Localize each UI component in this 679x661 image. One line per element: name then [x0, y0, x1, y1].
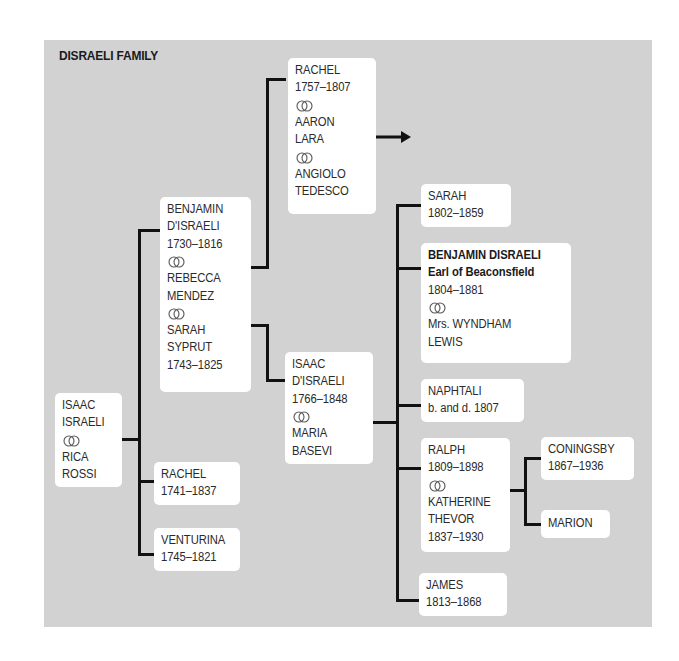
marriage-rings-icon — [62, 432, 116, 449]
name-line: D'ISRAELI — [292, 373, 360, 390]
connector-line — [524, 457, 542, 460]
connector-line — [266, 78, 286, 81]
person-rachel-1741: RACHEL 1741–1837 — [154, 462, 240, 505]
connector-line — [266, 78, 269, 269]
marriage-rings-icon — [295, 97, 370, 114]
connector-line — [396, 204, 421, 207]
dates-line: 1804–1881 — [428, 282, 551, 299]
connector-line — [524, 523, 542, 526]
dates-line: 1730–1816 — [167, 236, 237, 253]
spouse-line: REBECCA — [167, 270, 237, 287]
person-marion: MARION — [541, 510, 610, 538]
spouse-line: LARA — [295, 131, 363, 148]
name-line: ISAAC — [292, 356, 360, 373]
dates-line: 1741–1837 — [161, 483, 227, 500]
marriage-rings-icon — [428, 299, 565, 316]
name-line: MARION — [548, 515, 598, 532]
diagram-title: DISRAELI FAMILY — [59, 48, 158, 63]
name-line: BENJAMIN DISRAELI — [428, 247, 551, 264]
spouse-line: ROSSI — [62, 466, 111, 483]
marriage-rings-icon — [292, 408, 367, 425]
person-ralph: RALPH 1809–1898 KATHERINE THEVOR 1837–19… — [421, 438, 510, 552]
person-venturina: VENTURINA 1745–1821 — [154, 528, 240, 571]
name-line: NAPHTALI — [428, 383, 509, 400]
person-rachel-1757: RACHEL 1757–1807 AARON LARA ANGIOLO TEDE… — [288, 58, 376, 214]
connector-line — [138, 553, 154, 556]
connector-line — [396, 599, 421, 602]
dates-line: 1813–1868 — [426, 594, 494, 611]
person-benjamin-disraeli-1730: BENJAMIN D'ISRAELI 1730–1816 REBECCA MEN… — [160, 197, 251, 392]
spouse-line: MENDEZ — [167, 288, 237, 305]
marriage-rings-icon — [167, 305, 245, 322]
connector-line — [396, 404, 421, 407]
name-line: SARAH — [428, 188, 497, 205]
dates-line: 1867–1936 — [548, 458, 620, 475]
person-isaac-disraeli: ISAAC D'ISRAELI 1766–1848 MARIA BASEVI — [285, 352, 373, 464]
spouse-line: ANGIOLO — [295, 166, 363, 183]
spouse-line: LEWIS — [428, 334, 551, 351]
name-line: CONINGSBY — [548, 441, 620, 458]
name-line: VENTURINA — [161, 532, 227, 549]
name-line: RALPH — [428, 442, 496, 459]
connector-line — [138, 480, 154, 483]
connector-line — [138, 229, 160, 232]
name-line: RACHEL — [295, 62, 363, 79]
connector-line — [396, 267, 421, 270]
spouse-line: SARAH — [167, 322, 237, 339]
dates-line: 1809–1898 — [428, 459, 496, 476]
name-line: JAMES — [426, 577, 494, 594]
person-coningsby: CONINGSBY 1867–1936 — [541, 437, 634, 480]
spouse-line: SYPRUT — [167, 339, 237, 356]
connector-line — [266, 324, 269, 382]
marriage-rings-icon — [428, 477, 504, 494]
dates-line: b. and d. 1807 — [428, 400, 509, 417]
spouse-line: MARIA — [292, 425, 360, 442]
marriage-rings-icon — [295, 149, 370, 166]
connector-line — [266, 379, 286, 382]
spouse-line: TEDESCO — [295, 183, 363, 200]
name-line: D'ISRAELI — [167, 218, 237, 235]
dates-line: 1802–1859 — [428, 205, 497, 222]
person-james: JAMES 1813–1868 — [419, 573, 507, 616]
person-sarah: SARAH 1802–1859 — [421, 184, 511, 227]
person-benjamin-disraeli-earl: BENJAMIN DISRAELI Earl of Beaconsfield 1… — [421, 243, 571, 363]
dates-line: 1766–1848 — [292, 391, 360, 408]
dates-line: 1745–1821 — [161, 549, 227, 566]
person-naphtali: NAPHTALI b. and d. 1807 — [421, 379, 524, 422]
spouse-line: BASEVI — [292, 443, 360, 460]
person-isaac-israeli: ISAAC ISRAELI RICA ROSSI — [55, 393, 122, 487]
name-line: RACHEL — [161, 466, 227, 483]
name-line: BENJAMIN — [167, 201, 237, 218]
spouse-line: AARON — [295, 114, 363, 131]
spouse-line: THEVOR — [428, 511, 496, 528]
connector-line — [396, 467, 421, 470]
name-line: ISAAC — [62, 397, 111, 414]
connector-line — [524, 457, 527, 526]
spouse-line: RICA — [62, 449, 111, 466]
spouse-line: KATHERINE — [428, 494, 496, 511]
dates-line: 1743–1825 — [167, 357, 237, 374]
name-line: ISRAELI — [62, 414, 111, 431]
title-line: Earl of Beaconsfield — [428, 264, 551, 281]
arrow-right-icon — [376, 131, 412, 143]
spouse-line: Mrs. WYNDHAM — [428, 316, 551, 333]
connector-line — [396, 204, 399, 602]
connector-line — [138, 229, 141, 556]
marriage-rings-icon — [167, 253, 245, 270]
dates-line: 1757–1807 — [295, 79, 363, 96]
dates-line: 1837–1930 — [428, 529, 496, 546]
